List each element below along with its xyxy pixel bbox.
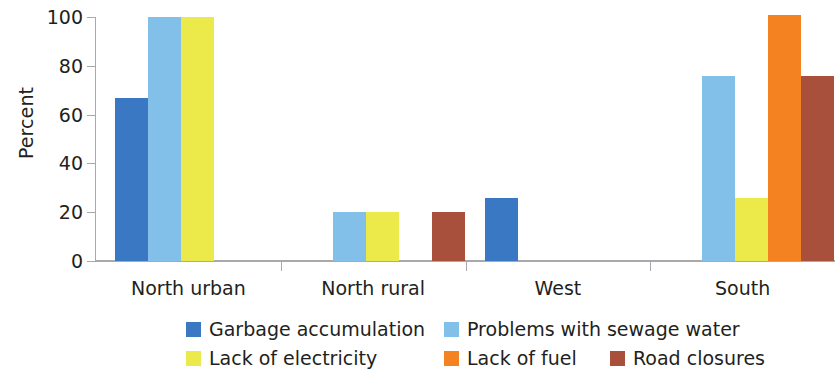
legend-swatch-icon: [444, 351, 459, 366]
legend-item[interactable]: Problems with sewage water: [444, 320, 740, 339]
bar: [148, 17, 181, 261]
y-tick-label: 80: [21, 56, 96, 75]
y-tick-mark: [87, 212, 96, 213]
x-axis-label: South: [650, 277, 835, 299]
x-tick-mark: [281, 262, 282, 271]
y-tick-label: 100: [21, 8, 96, 27]
y-tick-mark: [87, 66, 96, 67]
bar: [366, 212, 399, 261]
bar: [432, 212, 465, 261]
y-tick-label: 40: [21, 154, 96, 173]
bar: [115, 98, 148, 261]
x-axis-label: West: [466, 277, 651, 299]
x-axis-label: North rural: [281, 277, 466, 299]
y-tick-label: 20: [21, 203, 96, 222]
legend-item[interactable]: Road closures: [610, 349, 765, 368]
bar-chart: Percent 020406080100 North urbanNorth ru…: [0, 0, 839, 377]
legend-item[interactable]: Lack of fuel: [444, 349, 577, 368]
legend-item[interactable]: Garbage accumulation: [186, 320, 425, 339]
x-tick-mark: [650, 262, 651, 271]
bar: [181, 17, 214, 261]
y-tick-label: 60: [21, 105, 96, 124]
plot-area: 020406080100: [96, 17, 835, 261]
y-tick-mark: [87, 261, 96, 262]
y-tick-mark: [87, 115, 96, 116]
y-axis-line: [95, 17, 96, 261]
bar: [333, 212, 366, 261]
y-tick-mark: [87, 17, 96, 18]
legend-label: Road closures: [633, 349, 765, 368]
legend-swatch-icon: [186, 322, 201, 337]
bar: [702, 76, 735, 261]
legend-label: Lack of electricity: [209, 349, 377, 368]
legend-swatch-icon: [444, 322, 459, 337]
legend-label: Problems with sewage water: [467, 320, 740, 339]
y-tick-mark: [87, 163, 96, 164]
legend-label: Lack of fuel: [467, 349, 577, 368]
chart-legend: Garbage accumulationProblems with sewage…: [0, 318, 839, 376]
legend-item[interactable]: Lack of electricity: [186, 349, 377, 368]
bar: [735, 198, 768, 261]
x-axis-label: North urban: [96, 277, 281, 299]
legend-label: Garbage accumulation: [209, 320, 425, 339]
bar: [768, 15, 801, 261]
legend-swatch-icon: [610, 351, 625, 366]
legend-swatch-icon: [186, 351, 201, 366]
x-tick-mark: [466, 262, 467, 271]
bar: [801, 76, 834, 261]
y-tick-label: 0: [21, 252, 96, 271]
bar: [485, 198, 518, 261]
